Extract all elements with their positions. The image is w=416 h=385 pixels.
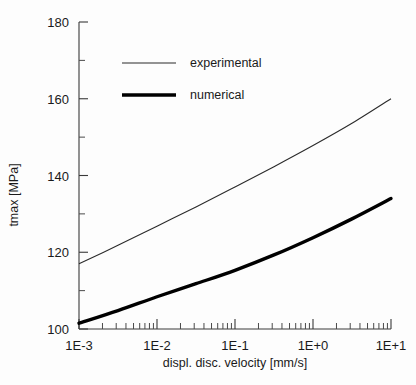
legend-label-experimental: experimental xyxy=(190,56,262,70)
y-tick-label: 100 xyxy=(47,322,69,337)
x-tick-label: 1E+0 xyxy=(298,338,329,353)
plot-area: 100120140160180 1E-31E-21E-11E+01E+1 dis… xyxy=(0,0,416,385)
y-tick-label: 160 xyxy=(47,92,69,107)
y-tick-label: 140 xyxy=(47,169,69,184)
x-axis-title: displ. disc. velocity [mm/s] xyxy=(163,356,307,370)
y-axis-title: tmax [MPa] xyxy=(7,163,21,226)
x-tick-label: 1E+1 xyxy=(376,338,407,353)
x-tick-label: 1E-3 xyxy=(65,338,92,353)
x-tick-label: 1E-2 xyxy=(143,338,170,353)
x-tick-label: 1E-1 xyxy=(221,338,248,353)
y-tick-label: 180 xyxy=(47,15,69,30)
chart-container: 100120140160180 1E-31E-21E-11E+01E+1 dis… xyxy=(0,0,416,385)
y-tick-label: 120 xyxy=(47,245,69,260)
legend-label-numerical: numerical xyxy=(190,88,244,102)
